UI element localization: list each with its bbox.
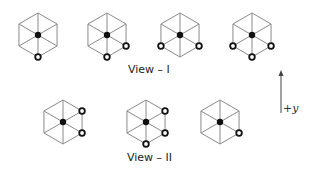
spoke-line bbox=[127, 122, 146, 133]
center-node bbox=[35, 32, 41, 38]
spoke-line bbox=[19, 35, 38, 46]
marked-vertex bbox=[79, 130, 85, 136]
spoke-line bbox=[201, 111, 220, 122]
spoke-line bbox=[38, 24, 57, 35]
center-node bbox=[249, 32, 255, 38]
spoke-line bbox=[107, 24, 126, 35]
hexagon-v2-3 bbox=[201, 100, 242, 144]
spoke-line bbox=[88, 24, 107, 35]
marked-vertex bbox=[35, 54, 41, 60]
hexagon-v2-1 bbox=[44, 100, 85, 144]
marked-vertex bbox=[143, 141, 149, 147]
spoke-line bbox=[161, 24, 180, 35]
marked-vertex bbox=[162, 108, 168, 114]
marked-vertex bbox=[162, 130, 168, 136]
marked-vertex bbox=[123, 43, 129, 49]
arrow-head-icon bbox=[279, 70, 284, 76]
spoke-line bbox=[38, 35, 57, 46]
hexagon-v1-2 bbox=[88, 13, 129, 60]
marked-vertex bbox=[268, 43, 274, 49]
spoke-line bbox=[201, 122, 220, 133]
marked-vertex bbox=[104, 54, 110, 60]
hexagon-v1-3 bbox=[158, 13, 202, 57]
marked-vertex bbox=[79, 108, 85, 114]
hexagon-v1-4 bbox=[230, 13, 274, 60]
spoke-line bbox=[252, 24, 271, 35]
hexagon-v1-1 bbox=[19, 13, 57, 60]
marked-vertex bbox=[196, 43, 202, 49]
center-node bbox=[104, 32, 110, 38]
spoke-line bbox=[180, 24, 199, 35]
spoke-line bbox=[19, 24, 38, 35]
y-axis-label: +y bbox=[283, 102, 298, 115]
center-node bbox=[143, 119, 149, 125]
spoke-line bbox=[220, 111, 239, 122]
center-node bbox=[60, 119, 66, 125]
view-1-label: View – I bbox=[128, 63, 170, 76]
spoke-line bbox=[44, 111, 63, 122]
marked-vertex bbox=[236, 130, 242, 136]
center-node bbox=[217, 119, 223, 125]
spoke-line bbox=[127, 111, 146, 122]
marked-vertex bbox=[158, 43, 164, 49]
view-2-label: View – II bbox=[127, 151, 172, 164]
center-node bbox=[177, 32, 183, 38]
hexagon-v2-2 bbox=[127, 100, 168, 147]
spoke-line bbox=[233, 24, 252, 35]
spoke-line bbox=[44, 122, 63, 133]
spoke-line bbox=[88, 35, 107, 46]
marked-vertex bbox=[230, 43, 236, 49]
marked-vertex bbox=[249, 54, 255, 60]
hexagon-views-diagram bbox=[0, 0, 317, 174]
